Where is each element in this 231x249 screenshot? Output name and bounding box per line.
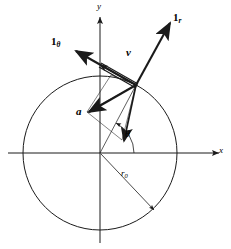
acceleration-vector-label: a (76, 106, 82, 117)
unit-vector-radial-label: 1r (173, 12, 181, 25)
x-axis-label: x (219, 146, 223, 155)
point-on-circle-marker (134, 83, 137, 86)
construction-line-4 (87, 112, 122, 140)
unit-vector-radial (136, 23, 170, 85)
unit-vector-radial-label-subscript: r (179, 16, 182, 25)
radius-indicator (101, 154, 154, 210)
velocity-vector-label: v (126, 47, 131, 58)
radius-line (101, 154, 154, 210)
radius-label: r0 (121, 169, 128, 180)
unit-vector-tangential-label-subscript: θ (57, 40, 61, 49)
angle-theta-label: θ (125, 129, 130, 139)
radius-label-subscript: 0 (125, 172, 128, 179)
physics-diagram-circular-motion: y x 1r 1θ v a θ r0 (0, 0, 231, 249)
diagram-canvas (0, 0, 231, 249)
axes-group (8, 17, 219, 243)
unit-vector-tangential-label: 1θ (51, 36, 60, 49)
y-axis-label: y (97, 2, 101, 11)
